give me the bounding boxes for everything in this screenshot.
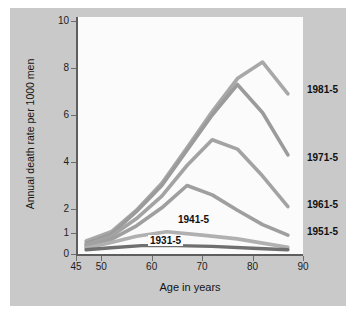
- figure-container: 01246810 455060708090 1981-51971-51961-5…: [0, 0, 356, 314]
- series-label-1941-5: 1941-5: [176, 214, 211, 225]
- y-axis-title: Annual death rate per 1000 men: [24, 34, 36, 234]
- series-label-1971-5: 1971-5: [307, 152, 338, 163]
- x-axis-title: Age in years: [77, 281, 303, 293]
- series-label-1981-5: 1981-5: [307, 84, 338, 95]
- series-label-1931-5: 1931-5: [148, 235, 183, 246]
- series-line-1931-5: [86, 246, 288, 250]
- series-line-group: [0, 0, 356, 314]
- series-label-1951-5: 1951-5: [307, 226, 338, 237]
- series-label-1961-5: 1961-5: [307, 199, 338, 210]
